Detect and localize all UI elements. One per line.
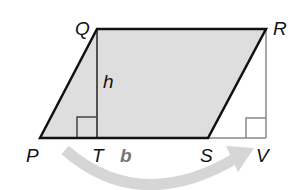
right-angle-v	[246, 118, 266, 138]
parallelogram-diagram: Q R h P T b S V	[0, 0, 296, 190]
label-r: R	[273, 18, 287, 39]
label-q: Q	[75, 18, 90, 39]
label-s: S	[200, 145, 213, 166]
label-v: V	[256, 145, 271, 166]
parallelogram-fill	[40, 29, 266, 138]
label-t: T	[92, 145, 105, 166]
label-h: h	[103, 71, 114, 92]
label-p: P	[26, 145, 39, 166]
label-b: b	[120, 145, 132, 166]
